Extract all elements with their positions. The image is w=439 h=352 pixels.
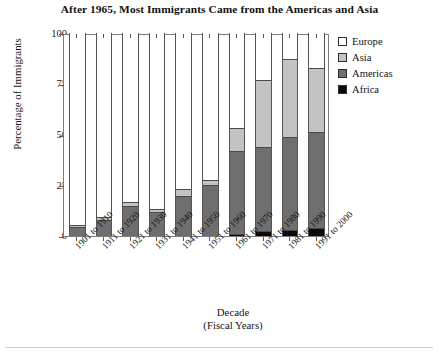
x-tick-mark-top-4 bbox=[183, 34, 184, 38]
bar-1921-to-1930 bbox=[122, 33, 138, 236]
legend-item-africa: Africa bbox=[338, 82, 436, 97]
legend-item-americas: Americas bbox=[338, 66, 436, 81]
chart-title: After 1965, Most Immigrants Came from th… bbox=[0, 3, 439, 15]
bar-1941-to-1950 bbox=[175, 33, 191, 236]
bar-1961-to-1970 bbox=[229, 33, 245, 236]
x-tick-mark-top-8 bbox=[289, 34, 290, 38]
x-axis-title-main: Decade bbox=[133, 306, 333, 319]
y-tick-label-50: 50 bbox=[33, 129, 67, 140]
bar-1901-to-1910 bbox=[69, 33, 85, 236]
x-axis-title-sub: (Fiscal Years) bbox=[133, 319, 333, 332]
legend-label-africa: Africa bbox=[352, 84, 379, 95]
legend-label-americas: Americas bbox=[352, 68, 393, 79]
legend-swatch-africa-icon bbox=[338, 85, 347, 94]
x-tick-mark-top-9 bbox=[316, 34, 317, 38]
segment-asia bbox=[229, 128, 245, 150]
x-tick-mark-top-1 bbox=[103, 34, 104, 38]
x-tick-mark-top-7 bbox=[263, 34, 264, 38]
x-tick-mark-top-2 bbox=[130, 34, 131, 38]
segment-europe bbox=[202, 33, 218, 180]
legend-label-europe: Europe bbox=[352, 36, 383, 47]
bar-1931-to-1940 bbox=[149, 33, 165, 236]
legend-label-asia: Asia bbox=[352, 52, 371, 63]
bar-1971-to-1980 bbox=[255, 33, 271, 236]
segment-europe bbox=[122, 33, 138, 201]
x-tick-mark-top-5 bbox=[209, 34, 210, 38]
legend-swatch-americas-icon bbox=[338, 69, 347, 78]
legend-swatch-europe-icon bbox=[338, 37, 347, 46]
plot-area bbox=[63, 34, 329, 237]
segment-asia bbox=[255, 80, 271, 147]
bar-1951-to-1960 bbox=[202, 33, 218, 236]
y-axis-title: Percentage of Immigrants bbox=[11, 14, 23, 174]
page-hairline bbox=[6, 347, 433, 348]
segment-europe bbox=[229, 33, 245, 128]
segment-europe bbox=[149, 33, 165, 209]
bars-layer bbox=[64, 35, 328, 236]
legend-item-asia: Asia bbox=[338, 50, 436, 65]
bar-1991-to-2000 bbox=[308, 33, 324, 236]
y-tick-label-75: 75 bbox=[33, 78, 67, 89]
segment-asia bbox=[175, 189, 191, 196]
segment-europe bbox=[308, 33, 324, 68]
x-tick-mark-top-6 bbox=[236, 34, 237, 38]
segment-europe bbox=[175, 33, 191, 189]
x-tick-mark-top-0 bbox=[76, 34, 77, 38]
legend-swatch-asia-icon bbox=[338, 53, 347, 62]
y-tick-mark-0 bbox=[59, 237, 64, 238]
bar-1911-to-1920 bbox=[96, 33, 112, 236]
segment-asia bbox=[282, 59, 298, 136]
legend-item-europe: Europe bbox=[338, 34, 436, 49]
x-tick-mark-top-3 bbox=[156, 34, 157, 38]
y-tick-label-0: 0 bbox=[33, 230, 67, 241]
immigration-stacked-bar-chart: After 1965, Most Immigrants Came from th… bbox=[0, 0, 439, 352]
bar-1981-to-1990 bbox=[282, 33, 298, 236]
segment-europe bbox=[255, 33, 271, 80]
legend: Europe Asia Americas Africa bbox=[338, 34, 436, 98]
x-axis-title: Decade (Fiscal Years) bbox=[133, 306, 333, 332]
segment-asia bbox=[308, 68, 324, 133]
segment-europe bbox=[69, 33, 85, 225]
segment-europe bbox=[96, 33, 112, 217]
